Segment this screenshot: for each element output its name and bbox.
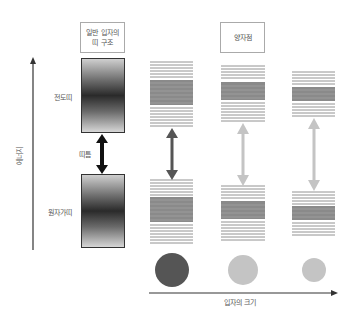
- size-axis: [149, 290, 338, 296]
- band-gap-arrow-small-qd: [308, 118, 320, 191]
- band-gap-arrow-medium-qd: [237, 123, 249, 186]
- bulk-conduction-band: [81, 58, 125, 133]
- energy-axis-label: 에너지: [14, 147, 24, 165]
- qd-medium-levels: [221, 66, 265, 285]
- band-gap-arrow-bulk: [96, 134, 108, 174]
- energy-axis: [30, 57, 36, 250]
- qd-medium-conduction-levels: [221, 66, 265, 121]
- diagram-canvas: [0, 0, 357, 324]
- band-gap-label: 띠틈: [79, 149, 91, 159]
- qd-medium-particle: [228, 255, 258, 285]
- bulk-title-box: 일반 입자의 띠 구조: [80, 22, 125, 53]
- qd-title-box: 양자점: [220, 22, 265, 53]
- qd-medium-valence-levels: [221, 186, 265, 240]
- bulk-title-line2: 띠 구조: [86, 38, 118, 48]
- size-axis-label: 입자의 크기: [224, 297, 256, 307]
- qd-small-valence-levels: [292, 192, 335, 235]
- qd-small-conduction-levels: [292, 72, 335, 116]
- qd-large-particle: [155, 253, 189, 287]
- qd-large-valence-levels: [150, 180, 193, 243]
- qd-small-levels: [292, 72, 335, 282]
- band-gap-arrow-large-qd: [166, 128, 178, 180]
- qd-large-levels: [150, 62, 193, 287]
- valence-band-label: 원자가띠: [48, 207, 72, 217]
- qd-large-conduction-levels: [150, 62, 193, 126]
- qd-small-particle: [302, 258, 326, 282]
- conduction-band-label: 전도띠: [54, 92, 72, 102]
- bulk-title-line1: 일반 입자의: [86, 28, 118, 38]
- bulk-valence-band: [81, 174, 125, 248]
- qd-title: 양자점: [234, 33, 252, 43]
